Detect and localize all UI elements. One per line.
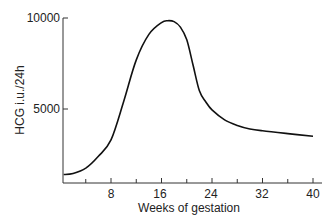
y-tick-label-10000: 10000 [27, 11, 61, 25]
x-tick-label-8: 8 [108, 187, 115, 201]
hcg-chart: 10000 5000 HCG i.u./24h 8 16 24 32 40 We… [0, 0, 335, 218]
hcg-curve [64, 21, 313, 175]
x-axis-label: Weeks of gestation [138, 201, 240, 215]
y-tick-label-5000: 5000 [33, 102, 60, 116]
x-tick-label-40: 40 [306, 187, 320, 201]
x-tick-label-24: 24 [204, 187, 218, 201]
x-tick-label-32: 32 [255, 187, 269, 201]
x-ticks [86, 178, 313, 183]
x-tick-label-16: 16 [153, 187, 167, 201]
y-axis-label: HCG i.u./24h [13, 65, 27, 134]
